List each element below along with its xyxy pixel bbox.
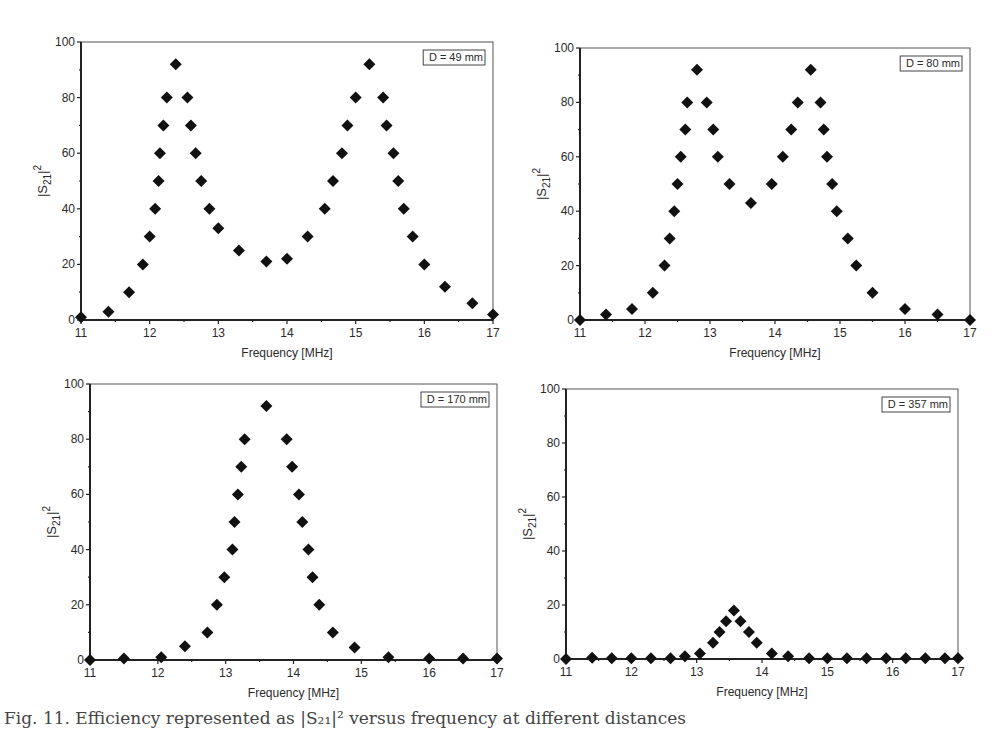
data-point-diamond: [341, 119, 353, 131]
x-tick-label: 17: [490, 666, 504, 680]
data-point-diamond: [377, 92, 389, 104]
data-point-diamond: [154, 147, 166, 159]
legend-label: D = 49 mm: [429, 51, 483, 63]
data-point-diamond: [260, 400, 272, 412]
data-point-diamond: [387, 147, 399, 159]
x-tick-label: 16: [898, 326, 912, 340]
data-point-diamond: [201, 626, 213, 638]
data-point-diamond: [821, 151, 833, 163]
x-tick-label: 16: [886, 665, 900, 679]
data-point-diamond: [707, 637, 719, 649]
data-point-diamond: [239, 433, 251, 445]
data-point-diamond: [694, 648, 706, 660]
y-tick-label: 0: [553, 652, 560, 666]
data-point-diamond: [681, 96, 693, 108]
x-axis-label: Frequency [MHz]: [716, 685, 807, 699]
data-point-diamond: [805, 64, 817, 76]
x-tick-label: 14: [768, 326, 782, 340]
data-point-diamond: [899, 303, 911, 315]
data-point-diamond: [766, 648, 778, 660]
data-point-diamond: [363, 58, 375, 70]
data-point-diamond: [212, 222, 224, 234]
x-tick-label: 11: [75, 326, 88, 340]
data-point-diamond: [466, 297, 478, 309]
y-tick-label: 20: [62, 257, 76, 271]
data-point-diamond: [179, 640, 191, 652]
y-tick-label: 0: [68, 313, 75, 327]
data-point-diamond: [701, 96, 713, 108]
y-tick-label: 100: [64, 377, 84, 391]
data-point-diamond: [350, 92, 362, 104]
y-tick-label: 80: [71, 432, 85, 446]
y-tick-label: 0: [77, 653, 84, 667]
x-tick-label: 13: [212, 326, 226, 340]
data-point-diamond: [439, 281, 451, 293]
x-tick-label: 14: [755, 665, 769, 679]
data-point-diamond: [720, 615, 732, 627]
y-tick-label: 0: [567, 313, 574, 327]
data-point-diamond: [235, 461, 247, 473]
x-axis-label: Frequency [MHz]: [241, 346, 332, 360]
data-point-diamond: [161, 92, 173, 104]
y-tick-label: 20: [71, 598, 85, 612]
data-point-diamond: [964, 314, 976, 326]
legend-label: D = 80 mm: [906, 57, 960, 69]
data-point-diamond: [803, 652, 815, 664]
data-point-diamond: [392, 175, 404, 187]
y-tick-label: 60: [62, 146, 76, 160]
y-tick-label: 80: [547, 436, 561, 450]
data-point-diamond: [850, 260, 862, 272]
chart-canvas: 02040608010011121314151617Frequency [MHz…: [0, 0, 1006, 730]
data-point-diamond: [302, 231, 314, 243]
data-point-diamond: [293, 488, 305, 500]
data-point-diamond: [821, 652, 833, 664]
data-point-diamond: [785, 124, 797, 136]
data-point-diamond: [679, 650, 691, 662]
data-point-diamond: [606, 652, 618, 664]
data-point-diamond: [647, 287, 659, 299]
data-point-diamond: [626, 303, 638, 315]
data-point-diamond: [313, 599, 325, 611]
data-point-diamond: [745, 197, 757, 209]
chart-panel-3: 02040608010011121314151617Frequency [MHz…: [41, 377, 504, 700]
data-point-diamond: [203, 203, 215, 215]
y-axis-label: |S21|2: [41, 505, 62, 538]
data-point-diamond: [841, 652, 853, 664]
data-point-diamond: [818, 124, 830, 136]
data-point-diamond: [155, 651, 167, 663]
y-tick-label: 40: [71, 543, 85, 557]
data-point-diamond: [707, 124, 719, 136]
y-axis-label: |S21|2: [531, 167, 552, 200]
data-point-diamond: [743, 626, 755, 638]
data-point-diamond: [724, 178, 736, 190]
data-point-diamond: [195, 175, 207, 187]
data-point-diamond: [382, 651, 394, 663]
data-point-diamond: [939, 652, 951, 664]
data-point-diamond: [880, 652, 892, 664]
data-point-diamond: [487, 308, 499, 320]
y-tick-label: 40: [561, 204, 575, 218]
data-point-diamond: [211, 599, 223, 611]
y-tick-label: 80: [561, 95, 575, 109]
data-point-diamond: [281, 253, 293, 265]
chart-panel-4: 02040608010011121314151617Frequency [MHz…: [517, 382, 965, 699]
x-tick-label: 13: [219, 666, 233, 680]
x-tick-label: 12: [151, 666, 165, 680]
y-tick-label: 100: [55, 35, 75, 49]
data-point-diamond: [831, 205, 843, 217]
data-point-diamond: [712, 151, 724, 163]
data-point-diamond: [190, 147, 202, 159]
plot-frame: [81, 42, 493, 320]
y-tick-label: 20: [561, 259, 575, 273]
x-tick-label: 15: [833, 326, 847, 340]
data-point-diamond: [714, 626, 726, 638]
x-tick-label: 17: [486, 326, 500, 340]
data-point-diamond: [181, 92, 193, 104]
x-tick-label: 11: [574, 326, 587, 340]
x-tick-label: 11: [84, 666, 97, 680]
data-point-diamond: [792, 96, 804, 108]
data-point-diamond: [625, 652, 637, 664]
data-point-diamond: [170, 58, 182, 70]
y-tick-label: 60: [547, 490, 561, 504]
data-point-diamond: [185, 119, 197, 131]
